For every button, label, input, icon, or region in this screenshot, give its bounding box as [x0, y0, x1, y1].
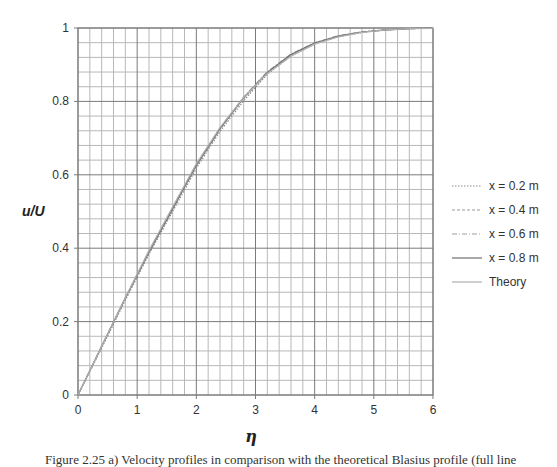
legend-label: x = 0.8 m: [489, 251, 539, 265]
legend-label: Theory: [489, 275, 526, 289]
x-tick-label: 0: [75, 403, 82, 417]
x-tick-label: 6: [430, 403, 437, 417]
x-tick-label: 3: [252, 403, 259, 417]
x-tick-label: 2: [193, 403, 200, 417]
y-tick-label: 0.8: [52, 94, 69, 108]
chart-legend: x = 0.2 mx = 0.4 mx = 0.6 mx = 0.8 mTheo…: [452, 179, 539, 289]
figure-caption: Figure 2.25 a) Velocity profiles in comp…: [0, 452, 557, 467]
y-tick-label: 0.6: [52, 168, 69, 182]
y-axis-title: u/U: [22, 203, 45, 219]
y-tick-label: 0.2: [52, 315, 69, 329]
legend-label: x = 0.6 m: [489, 227, 539, 241]
major-grid: [78, 28, 433, 395]
y-tick-label: 1: [62, 21, 69, 35]
x-tick-label: 4: [311, 403, 318, 417]
velocity-profile-chart: 0123456 00.20.40.60.81 u/U η x = 0.2 mx …: [0, 0, 557, 467]
x-tick-label: 5: [370, 403, 377, 417]
x-axis-ticks: 0123456: [75, 395, 437, 417]
y-tick-label: 0: [62, 388, 69, 402]
legend-label: x = 0.4 m: [489, 203, 539, 217]
x-axis-title: η: [245, 427, 257, 446]
legend-label: x = 0.2 m: [489, 179, 539, 193]
x-tick-label: 1: [134, 403, 141, 417]
y-tick-label: 0.4: [52, 241, 69, 255]
y-axis-ticks: 00.20.40.60.81: [52, 21, 78, 402]
